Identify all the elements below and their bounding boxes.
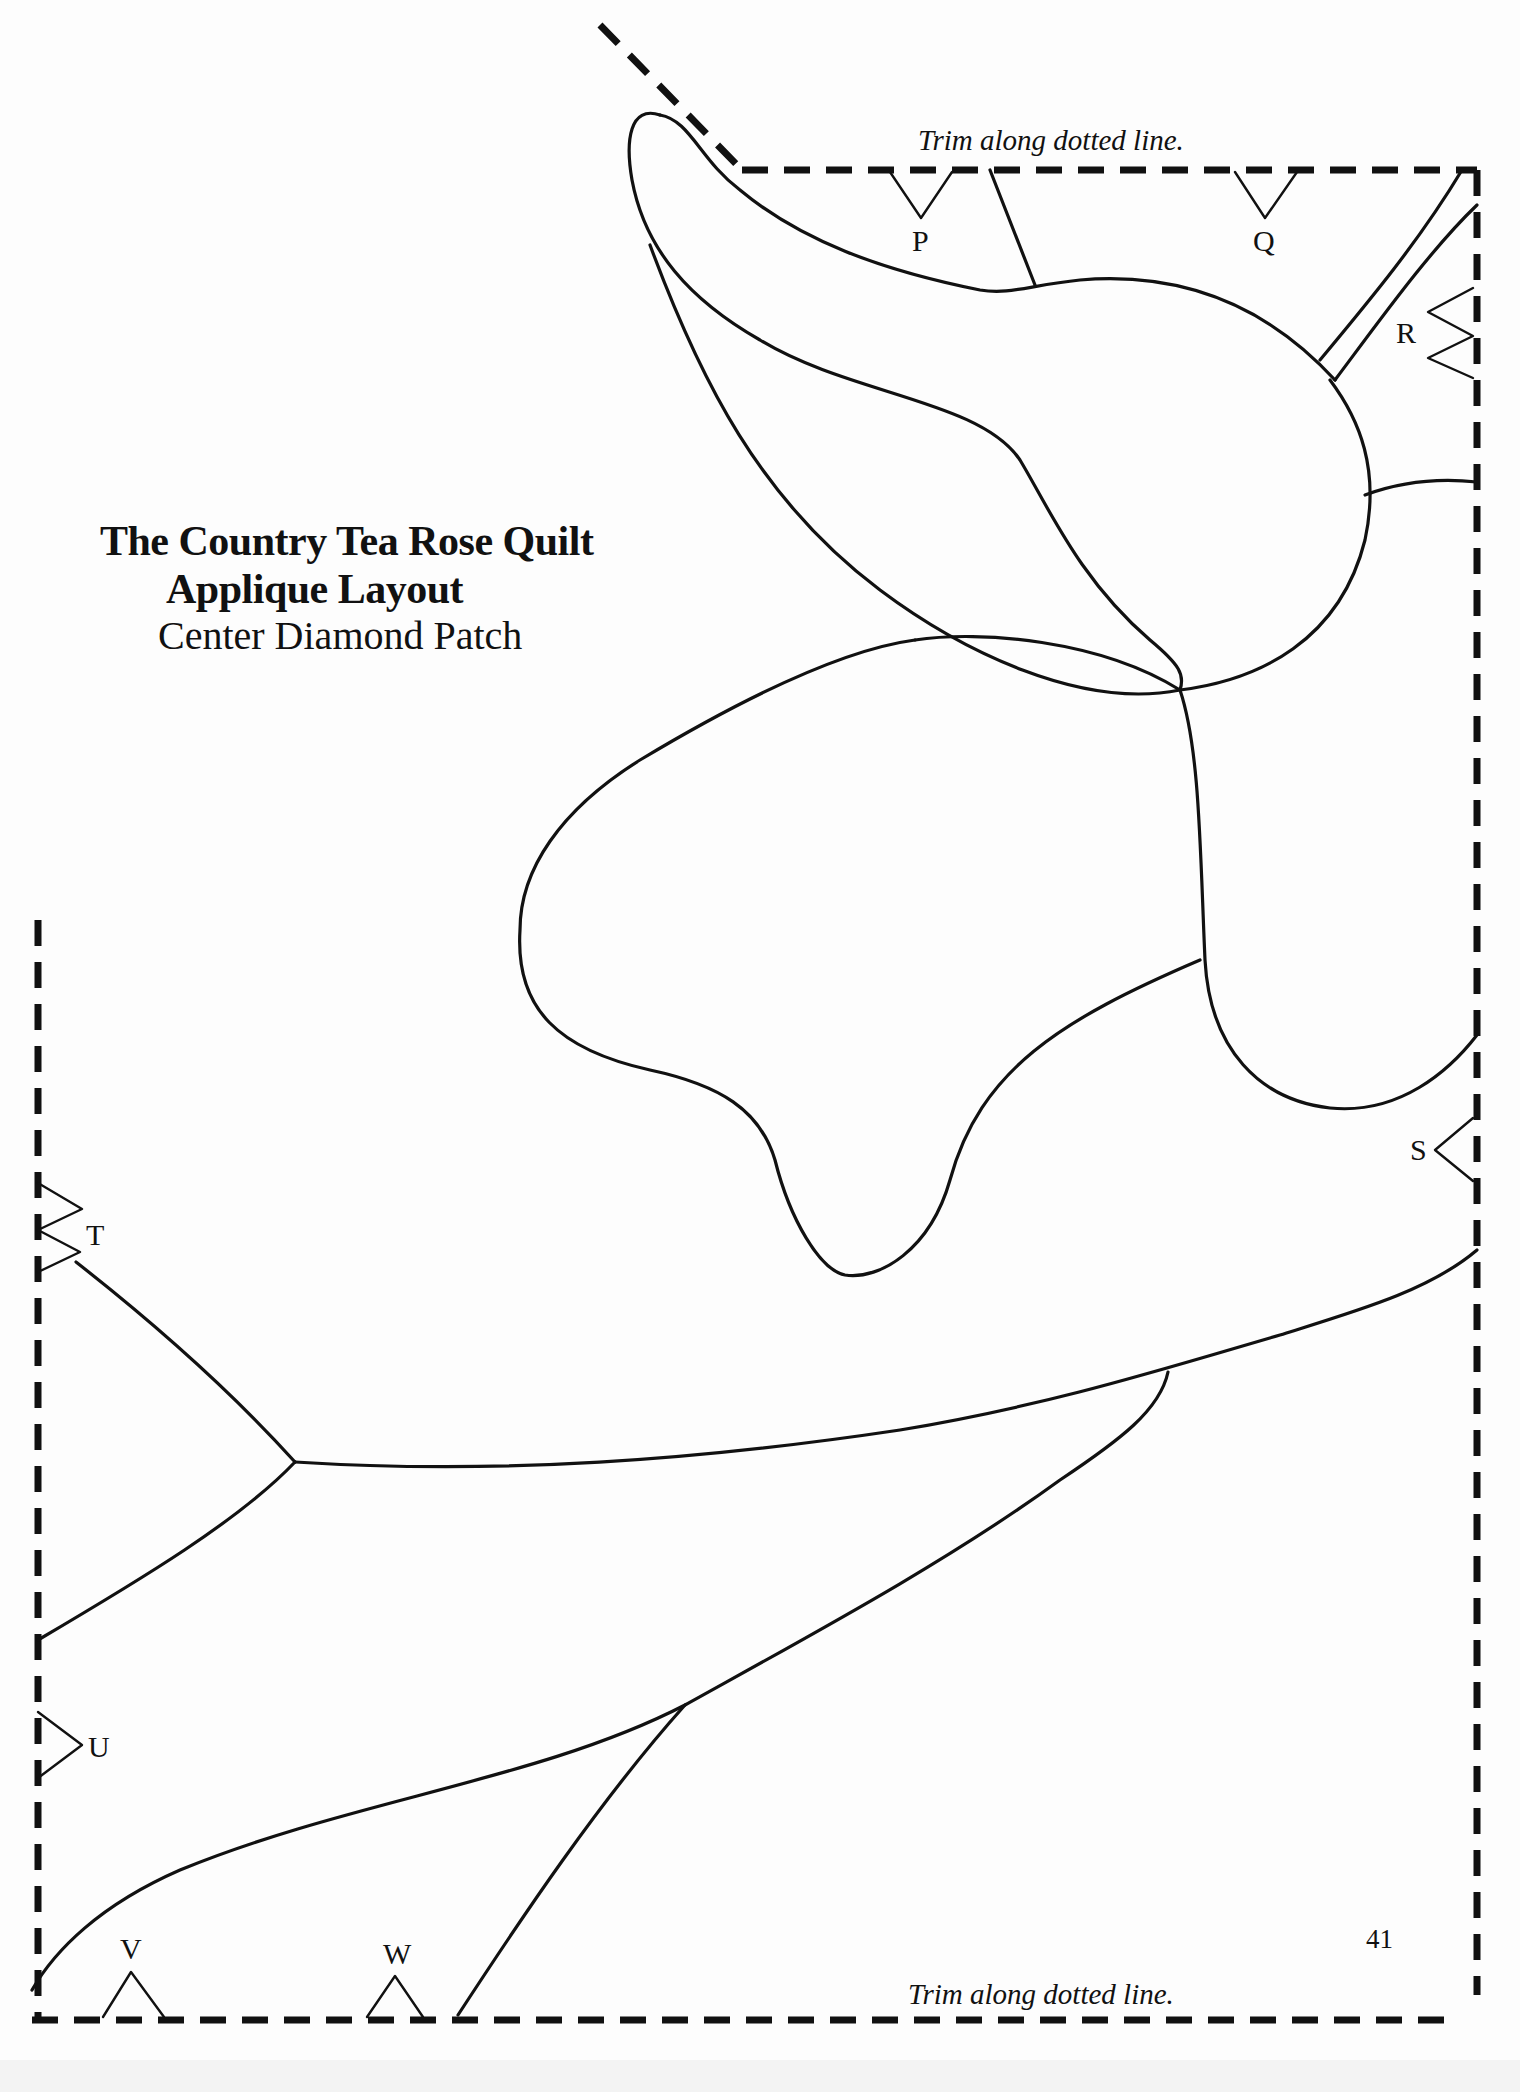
notch-q xyxy=(1235,172,1297,218)
middle-leaf-top xyxy=(915,637,1180,690)
pattern-subtitle: Applique Layout xyxy=(100,568,593,610)
trim-diagonal-top xyxy=(600,25,742,170)
bud-body xyxy=(650,245,1370,694)
notch-s xyxy=(1435,1118,1473,1181)
mark-label-p: P xyxy=(912,224,929,258)
pattern-piece-name: Center Diamond Patch xyxy=(100,616,593,656)
stem-branch-lower xyxy=(38,1462,295,1640)
notch-w xyxy=(367,1976,423,2017)
applique-pattern-drawing xyxy=(0,0,1520,2092)
right-lobe xyxy=(1180,690,1477,1109)
pattern-title: The Country Tea Rose Quilt xyxy=(100,520,593,562)
stem-lower-band xyxy=(32,1372,1168,1990)
notch-r xyxy=(1428,288,1473,378)
page-number: 41 xyxy=(1366,1924,1393,1955)
mark-label-s: S xyxy=(1410,1133,1427,1167)
stem-upper xyxy=(295,1250,1477,1467)
trim-border xyxy=(32,25,1477,2020)
pattern-title-block: The Country Tea Rose Quilt Applique Layo… xyxy=(100,520,593,656)
page-bottom-margin xyxy=(0,2060,1520,2092)
mark-label-w: W xyxy=(383,1937,411,1971)
stem-line-r1 xyxy=(1320,170,1462,360)
stem-line-r2 xyxy=(1335,205,1477,380)
leaf-shape-top xyxy=(629,113,1181,690)
stem-branch-t xyxy=(76,1262,295,1462)
bud-inner-line xyxy=(1365,481,1477,495)
mark-label-u: U xyxy=(88,1730,110,1764)
mark-label-q: Q xyxy=(1253,224,1275,258)
notch-v xyxy=(103,1972,164,2017)
trim-instruction-bottom: Trim along dotted line. xyxy=(908,1978,1174,2011)
mark-label-r: R xyxy=(1396,316,1416,350)
applique-outlines xyxy=(32,113,1477,2015)
segment-line-p xyxy=(990,170,1035,285)
pattern-page: The Country Tea Rose Quilt Applique Layo… xyxy=(0,0,1520,2092)
trim-instruction-top: Trim along dotted line. xyxy=(918,124,1184,157)
middle-leaf xyxy=(520,640,1200,1276)
notch-t xyxy=(38,1183,82,1272)
notch-u xyxy=(38,1712,82,1778)
mark-label-t: T xyxy=(86,1218,104,1252)
mark-label-v: V xyxy=(120,1932,142,1966)
notch-p xyxy=(890,172,952,218)
registration-notches xyxy=(38,172,1473,2017)
